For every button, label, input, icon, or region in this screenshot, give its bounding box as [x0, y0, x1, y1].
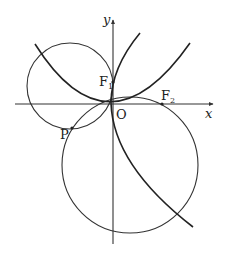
p-label: P [60, 127, 69, 142]
f1-label: F [99, 74, 108, 89]
origin-label: O [116, 107, 127, 122]
large-circle [62, 97, 198, 233]
x-axis-label: x [205, 106, 213, 121]
y-axis-label: y [102, 12, 111, 27]
conic-diagram: y x O F 1 F 2 P [0, 0, 227, 258]
f2-subscript: 2 [170, 96, 175, 105]
f1-subscript: 1 [108, 82, 113, 91]
point-p [70, 126, 73, 129]
f2-label: F [161, 88, 170, 103]
rightward-parabola-upper [111, 33, 140, 103]
